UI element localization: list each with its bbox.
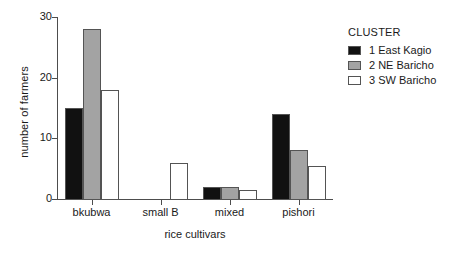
legend-swatch — [348, 76, 361, 85]
legend-title: CLUSTER — [348, 26, 460, 38]
y-tick-label-wrap: 20 — [0, 72, 52, 83]
legend: CLUSTER 1 East Kagio2 NE Baricho3 SW Bar… — [348, 26, 460, 88]
y-tick-label: 30 — [26, 11, 52, 22]
bar — [272, 114, 290, 200]
legend-item-label: 3 SW Baricho — [369, 74, 436, 86]
y-tick-label-wrap: 0 — [0, 193, 52, 204]
bar — [83, 29, 101, 200]
y-tick-label: 0 — [26, 193, 52, 204]
y-tick-mark — [52, 138, 57, 139]
legend-item: 1 East Kagio — [348, 43, 460, 57]
x-tick-mark — [92, 200, 93, 205]
x-tick-mark — [230, 200, 231, 205]
x-tick-mark — [161, 200, 162, 205]
legend-item-label: 2 NE Baricho — [369, 59, 434, 71]
legend-entries: 1 East Kagio2 NE Baricho3 SW Baricho — [348, 43, 460, 87]
y-axis-line — [57, 17, 58, 200]
bar — [101, 90, 119, 200]
bar — [239, 190, 257, 200]
legend-item: 2 NE Baricho — [348, 58, 460, 72]
x-tick-mark — [299, 200, 300, 205]
legend-swatch — [348, 61, 361, 70]
y-axis-label: number of farmers — [18, 32, 30, 192]
legend-item: 3 SW Baricho — [348, 73, 460, 87]
legend-item-label: 1 East Kagio — [369, 44, 431, 56]
y-tick-mark — [52, 17, 57, 18]
x-tick-label: bkubwa — [52, 206, 132, 218]
bar — [290, 150, 308, 200]
x-tick-label: pishori — [259, 206, 339, 218]
y-tick-label: 20 — [26, 72, 52, 83]
legend-swatch — [348, 46, 361, 55]
y-tick-label-wrap: 10 — [0, 132, 52, 143]
x-tick-label: mixed — [190, 206, 270, 218]
x-tick-label: small B — [121, 206, 201, 218]
bar — [308, 166, 326, 200]
bar — [65, 108, 83, 200]
bar — [203, 187, 221, 200]
y-tick-label: 10 — [26, 132, 52, 143]
y-tick-mark — [52, 78, 57, 79]
bar — [170, 163, 188, 200]
bar-chart-figure: number of farmers 0102030 bkubwasmall Bm… — [0, 0, 461, 255]
x-axis-label: rice cultivars — [57, 228, 333, 240]
y-tick-label-wrap: 30 — [0, 11, 52, 22]
bar — [221, 187, 239, 200]
